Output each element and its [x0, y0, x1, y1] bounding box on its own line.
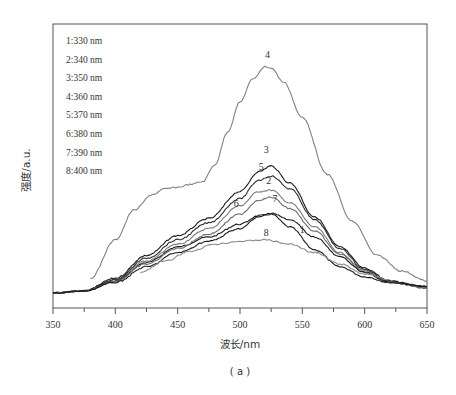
x-axis-tick-labels: 350400450500550600650	[46, 319, 435, 330]
legend-entry: 4:360 nm	[66, 92, 103, 102]
curve-labels: 43526718	[234, 49, 305, 238]
y-axis-title: 强度/a.u.	[20, 148, 32, 191]
x-tick-label: 600	[357, 319, 372, 330]
curve-label-4: 4	[265, 49, 270, 60]
x-axis-title: 波长/nm	[220, 338, 260, 350]
legend: 1:330 nm2:340 nm3:350 nm4:360 nm5:370 nm…	[66, 36, 103, 176]
legend-entry: 3:350 nm	[66, 73, 103, 83]
legend-entry: 8:400 nm	[66, 166, 103, 176]
legend-entry: 5:370 nm	[66, 110, 103, 120]
legend-entry: 2:340 nm	[66, 55, 103, 65]
x-tick-label: 450	[170, 319, 185, 330]
curve-label-6: 6	[234, 198, 239, 209]
curve-label-3: 3	[264, 144, 269, 155]
curve-label-1: 1	[300, 224, 305, 235]
x-tick-label: 650	[420, 319, 435, 330]
legend-entry: 7:390 nm	[66, 148, 103, 158]
spectrum-chart: 350400450500550600650 1:330 nm2:340 nm3:…	[0, 0, 456, 395]
x-tick-label: 350	[46, 319, 61, 330]
curves	[53, 66, 427, 294]
curve-label-8: 8	[264, 227, 269, 238]
curve-5	[53, 176, 427, 293]
plot-frame	[53, 24, 427, 308]
x-tick-label: 550	[295, 319, 310, 330]
x-tick-label: 400	[108, 319, 123, 330]
x-axis-ticks	[53, 308, 427, 314]
x-tick-label: 500	[233, 319, 248, 330]
curve-4	[90, 66, 427, 281]
legend-entry: 6:380 nm	[66, 129, 103, 139]
curve-label-2: 2	[266, 175, 271, 186]
curve-8	[140, 239, 389, 279]
curve-label-7: 7	[272, 193, 277, 204]
figure-caption: ( a )	[230, 366, 250, 377]
legend-entry: 1:330 nm	[66, 36, 103, 46]
curve-label-5: 5	[259, 161, 264, 172]
